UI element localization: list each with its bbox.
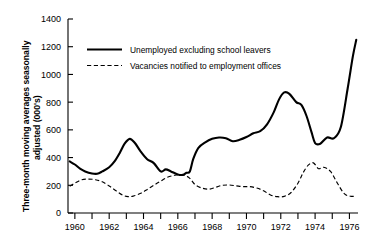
line-chart: Three-month moving averages seasonally a… xyxy=(0,0,379,243)
x-axis-tick-label: 1962 xyxy=(99,222,119,232)
x-axis-tick-label: 1968 xyxy=(202,222,222,232)
chart-container: Three-month moving averages seasonally a… xyxy=(0,0,379,243)
y-axis-tick-label: 1400 xyxy=(41,14,61,24)
y-axis-tick-label: 1000 xyxy=(41,70,61,80)
legend-label-unemployed: Unemployed excluding school leavers xyxy=(130,45,271,55)
y-axis-tick-label: 400 xyxy=(46,153,61,163)
x-axis-tick-label: 1964 xyxy=(133,222,153,232)
x-axis-tick-label: 1972 xyxy=(271,222,291,232)
x-axis-tick-label: 1974 xyxy=(305,222,325,232)
chart-background xyxy=(0,0,379,243)
x-axis-tick-label: 1960 xyxy=(65,222,85,232)
y-axis-tick-label: 600 xyxy=(46,125,61,135)
y-axis-tick-label: 800 xyxy=(46,98,61,108)
x-axis-tick-label: 1966 xyxy=(168,222,188,232)
y-axis-tick-label: 0 xyxy=(56,208,61,218)
y-axis-tick-label: 200 xyxy=(46,181,61,191)
legend-label-vacancies: Vacancies notified to employment offices xyxy=(130,61,281,71)
y-axis-label-line2: adjusted (000's) xyxy=(32,95,42,160)
x-axis-tick-label: 1970 xyxy=(236,222,256,232)
y-axis-label-line1: Three-month moving averages seasonally xyxy=(21,40,31,212)
x-axis-tick-label: 1976 xyxy=(339,222,359,232)
y-axis-tick-label: 1200 xyxy=(41,42,61,52)
x-axis: 196019621964196619681970197219741976 xyxy=(65,213,360,232)
